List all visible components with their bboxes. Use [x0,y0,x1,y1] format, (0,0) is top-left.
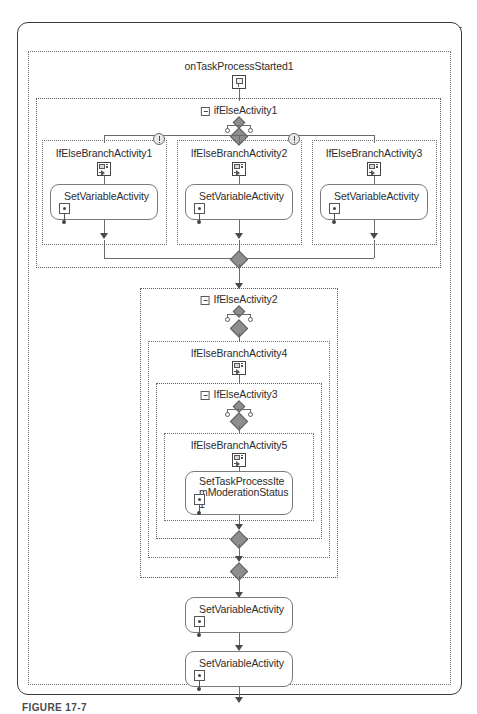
arrowhead-branch3-out-icon [370,233,378,239]
arrowhead-ifelse3-merge-icon [235,556,243,562]
activity-box-set-variable-3[interactable]: SetVariableActivity 3 [320,184,428,220]
connector-branch1-to-activity [104,176,105,184]
activity-box-set-task-process-item-moderation-status[interactable]: SetTaskProcessIte mModerationStatus 1 [185,471,293,515]
figure-caption: FIGURE 17-7 [22,702,87,713]
connector-branch2-to-activity [239,176,240,184]
node-label-branch-1: IfElseBranchActivity1 [56,147,153,159]
event-handler-icon [232,75,246,89]
activity-label-set-variable-2: SetVariableActivity 2 [199,190,290,215]
collapse-toggle-icon-3[interactable] [201,391,210,400]
node-label-ifelse-activity-3: IfElseActivity3 [201,388,278,400]
branch-icon-1 [97,162,111,176]
activity-label-set-variable-5: SetVariableActivity 5 [199,657,290,682]
branch-icon-3 [367,162,381,176]
ifelse-activity-2-text: IfElseActivity2 [214,293,278,305]
branch-icon-4 [232,361,246,375]
branch-icon-2 [232,162,246,176]
activity-label-set-variable-3: SetVariableActivity 3 [334,190,425,215]
merge-riser-1c [374,240,375,258]
node-label-branch-2: IfElseBranchActivity2 [191,147,288,159]
warning-badge-icon-1[interactable] [153,133,165,145]
arrowhead-branch2-out-icon [235,233,243,239]
ifelse-activity-3-text: IfElseActivity3 [214,388,278,400]
activity-box-set-variable-4[interactable]: SetVariableActivity 4 [185,597,293,633]
workflow-diagram-canvas: onTaskProcessStarted1 ifElseActivity1 If… [0,0,477,714]
arrowhead-branch5-out-icon [235,524,243,530]
collapse-toggle-icon[interactable] [201,107,210,116]
ifelse-activity-1-text: ifElseActivity1 [214,104,277,116]
merge-riser-1a [104,240,105,258]
node-label-branch-4: IfElseBranchActivity4 [191,347,288,359]
arrowhead-workflow-end-icon [235,697,243,703]
node-label-on-task-process-started: onTaskProcessStarted1 [185,60,294,72]
warning-badge-icon-2[interactable] [288,133,300,145]
activity-label-set-task-process-item-moderation-status: SetTaskProcessIte mModerationStatus 1 [199,476,294,511]
node-label-branch-3: IfElseBranchActivity3 [326,147,423,159]
connector-branch3-to-activity [374,176,375,184]
collapse-toggle-icon-2[interactable] [201,296,210,305]
arrowhead-branch1-out-icon [100,233,108,239]
branch-icon-5 [232,453,246,467]
activity-label-set-variable-4: SetVariableActivity 4 [199,603,290,628]
activity-box-set-variable-5[interactable]: SetVariableActivity 5 [185,651,293,687]
activity-box-set-variable-2[interactable]: SetVariableActivity 2 [185,184,293,220]
node-label-branch-5: IfElseBranchActivity5 [191,439,288,451]
activity-box-set-variable-1[interactable]: SetVariableActivity 1 [50,184,158,220]
activity-label-set-variable-1: SetVariableActivity 1 [64,190,155,215]
node-label-ifelse-activity-2: IfElseActivity2 [201,293,278,305]
node-label-ifelse-activity-1: ifElseActivity1 [201,104,277,116]
